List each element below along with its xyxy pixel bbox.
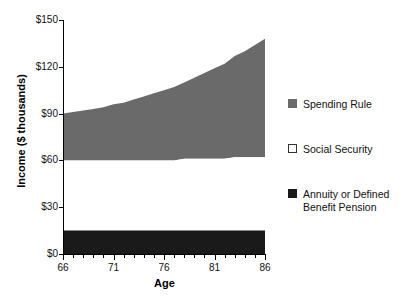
x-tick-mark-major — [215, 255, 216, 260]
legend-entry[interactable]: Spending Rule — [288, 98, 372, 111]
x-tick-mark-minor — [144, 255, 145, 258]
plot-area — [63, 20, 265, 254]
x-tick-mark-minor — [194, 255, 195, 258]
x-tick-label: 86 — [250, 262, 280, 273]
x-tick-label: 66 — [48, 262, 78, 273]
x-tick-label: 71 — [99, 262, 129, 273]
y-tick-label: $0 — [47, 249, 58, 259]
legend-swatch-icon — [288, 99, 297, 108]
x-tick-mark-major — [164, 255, 165, 260]
y-tick-label: $120 — [36, 62, 58, 72]
legend-swatch-icon — [288, 189, 297, 198]
x-tick-mark-minor — [235, 255, 236, 258]
legend-entry[interactable]: Social Security — [288, 143, 372, 156]
area-band-annuity — [63, 231, 265, 254]
x-tick-label: 81 — [200, 262, 230, 273]
y-tick-mark — [59, 67, 63, 68]
x-tick-label: 76 — [149, 262, 179, 273]
y-tick-label: $150 — [36, 15, 58, 25]
legend-label: Annuity or DefinedBenefit Pension — [303, 188, 389, 213]
stacked-area-paths — [63, 20, 265, 254]
x-tick-mark-minor — [204, 255, 205, 258]
legend-label: Social Security — [303, 143, 372, 156]
x-tick-mark-minor — [225, 255, 226, 258]
y-axis-title: Income ($ thousands) — [15, 61, 27, 201]
x-axis-title: Age — [63, 277, 266, 289]
x-tick-mark-minor — [103, 255, 104, 258]
x-tick-mark-minor — [134, 255, 135, 258]
legend-label: Spending Rule — [303, 98, 372, 111]
area-band-spending-rule — [63, 39, 265, 161]
y-tick-label: $60 — [41, 155, 58, 165]
x-tick-mark-major — [265, 255, 266, 260]
y-axis-line — [63, 20, 64, 255]
area-band-social-security — [63, 157, 265, 230]
legend-swatch-icon — [288, 144, 297, 153]
x-tick-mark-minor — [174, 255, 175, 258]
x-tick-mark-minor — [154, 255, 155, 258]
y-tick-mark — [59, 114, 63, 115]
x-tick-mark-minor — [245, 255, 246, 258]
y-tick-mark — [59, 20, 63, 21]
x-tick-mark-major — [63, 255, 64, 260]
y-tick-label: $90 — [41, 109, 58, 119]
x-tick-mark-minor — [73, 255, 74, 258]
income-stacked-area-chart: $0$30$60$90$120$150 6671768186 Income ($… — [0, 0, 407, 307]
y-tick-label: $30 — [41, 202, 58, 212]
x-tick-mark-major — [114, 255, 115, 260]
x-tick-mark-minor — [83, 255, 84, 258]
y-tick-mark — [59, 160, 63, 161]
x-tick-mark-minor — [124, 255, 125, 258]
legend-entry[interactable]: Annuity or DefinedBenefit Pension — [288, 188, 389, 213]
x-tick-mark-minor — [93, 255, 94, 258]
x-tick-mark-minor — [184, 255, 185, 258]
x-tick-mark-minor — [255, 255, 256, 258]
y-tick-mark — [59, 207, 63, 208]
